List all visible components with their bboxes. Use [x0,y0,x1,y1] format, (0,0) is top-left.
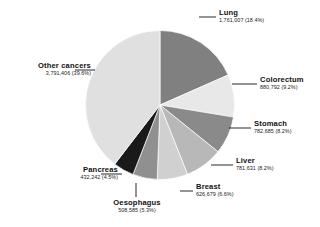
slice-label-oesophagus-name: Oesophagus [101,198,173,207]
pie-slices [86,31,235,180]
slice-label-liver-name: Liver [236,156,274,165]
slice-label-colorectum-name: Colorectum [260,75,304,84]
slice-label-pancreas[interactable]: Pancreas 432,242 (4.5%) [39,165,118,181]
slice-label-breast-name: Breast [196,182,234,191]
slice-label-lung-name: Lung [219,8,264,17]
slice-label-colorectum[interactable]: Colorectum 880,792 (9.2%) [260,75,304,91]
slice-label-lung[interactable]: Lung 1,761,007 (18.4%) [219,8,264,24]
pie-chart-canvas [0,0,320,227]
slice-label-oesophagus-value: 508,585 (5.3%) [101,207,173,214]
slice-label-liver[interactable]: Liver 781,631 (8.2%) [236,156,274,172]
slice-label-stomach[interactable]: Stomach 782,685 (8.2%) [254,119,292,135]
slice-label-stomach-name: Stomach [254,119,292,128]
slice-label-pancreas-name: Pancreas [39,165,118,174]
slice-label-lung-value: 1,761,007 (18.4%) [219,17,264,24]
pie-chart: Lung 1,761,007 (18.4%) Colorectum 880,79… [0,0,320,227]
slice-label-oesophagus[interactable]: Oesophagus 508,585 (5.3%) [101,198,173,214]
slice-label-other-cancers-name: Other cancers [5,61,91,70]
slice-label-other-cancers[interactable]: Other cancers 3,791,406 (39.6%) [5,61,91,77]
slice-label-breast-value: 626,679 (6.6%) [196,191,234,198]
slice-label-colorectum-value: 880,792 (9.2%) [260,84,304,91]
slice-label-pancreas-value: 432,242 (4.5%) [39,174,118,181]
slice-label-breast[interactable]: Breast 626,679 (6.6%) [196,182,234,198]
slice-label-stomach-value: 782,685 (8.2%) [254,128,292,135]
slice-label-liver-value: 781,631 (8.2%) [236,165,274,172]
slice-label-other-cancers-value: 3,791,406 (39.6%) [5,70,91,77]
